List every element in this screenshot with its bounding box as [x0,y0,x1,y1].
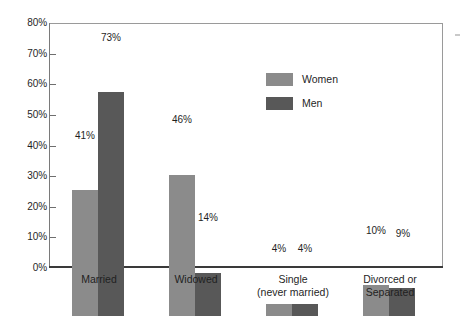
y-tick-label-20: 20% [7,202,47,212]
legend-item-women[interactable]: Women [266,70,338,88]
bar-single-women[interactable] [266,304,292,316]
bar-married-women[interactable] [72,190,98,316]
y-tick-label-40: 40% [7,141,47,151]
legend-item-men[interactable]: Men [266,94,338,112]
bar-value-married-women: 41% [62,130,108,141]
y-tick-label-10: 10% [7,232,47,242]
legend-label-women: Women [302,74,338,85]
category-label-widowed: Widowed [151,273,241,286]
bar-value-married-men: 73% [88,32,134,43]
y-axis: 80% 70% 60% 50% 40% 30% 20% 10% 0% [0,0,47,316]
y-tick-label-30: 30% [7,171,47,181]
y-tick-mark-70 [50,54,56,55]
category-label-divorced: Divorced or Separated [335,273,445,299]
bar-widowed-women[interactable] [169,175,195,316]
y-tick-mark-10 [50,237,56,238]
bar-value-widowed-women: 46% [159,114,205,125]
bar-value-divorced-men: 9% [380,228,426,239]
scan-artifact [455,34,460,36]
y-tick-mark-30 [50,176,56,177]
y-tick-label-50: 50% [7,110,47,120]
y-tick-label-80: 80% [7,18,47,28]
y-tick-label-0: 0% [7,263,47,273]
y-tick-label-70: 70% [7,49,47,59]
bar-value-single-men: 4% [282,243,328,254]
legend-swatch-women-icon [266,73,293,86]
y-tick-mark-60 [50,84,56,85]
legend: Women Men [266,70,338,118]
bar-single-men[interactable] [292,304,318,316]
category-label-married: Married [54,273,144,286]
legend-swatch-men-icon [266,97,293,110]
category-label-single: Single (never married) [238,273,348,299]
bar-value-widowed-men: 14% [185,212,231,223]
y-tick-mark-50 [50,115,56,116]
y-tick-mark-20 [50,207,56,208]
y-tick-mark-40 [50,146,56,147]
bar-chart: 80% 70% 60% 50% 40% 30% 20% 10% 0% 41% 7… [0,0,470,316]
y-tick-label-60: 60% [7,79,47,89]
legend-label-men: Men [302,98,322,109]
